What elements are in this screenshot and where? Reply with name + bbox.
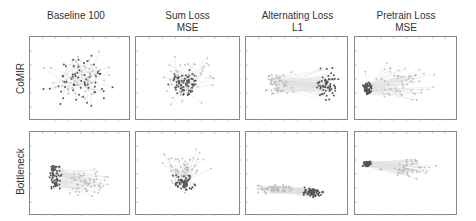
panel-comir-sum-loss bbox=[135, 36, 240, 120]
scatter-plot bbox=[355, 132, 458, 216]
column-title-text: Sum Loss bbox=[135, 10, 240, 22]
panel-bottleneck-baseline bbox=[29, 131, 130, 215]
column-subtitle-text: MSE bbox=[354, 22, 458, 34]
scatter-plot bbox=[136, 132, 241, 216]
scatter-plot bbox=[30, 37, 131, 121]
column-title-baseline: Baseline 100 bbox=[22, 10, 130, 22]
scatter-plot bbox=[246, 37, 349, 121]
column-title-sum-loss: Sum Loss MSE bbox=[135, 10, 240, 34]
column-subtitle-text: L1 bbox=[245, 22, 350, 34]
row-label-comir: CoMIR bbox=[15, 39, 26, 119]
scatter-plot bbox=[355, 37, 458, 121]
scatter-plot bbox=[30, 132, 131, 216]
panel-comir-alternating-loss bbox=[245, 36, 348, 120]
column-title-pretrain-loss: Pretrain Loss MSE bbox=[354, 10, 458, 34]
scatter-plot bbox=[246, 132, 349, 216]
row-label-bottleneck: Bottleneck bbox=[15, 132, 26, 212]
column-title-alternating-loss: Alternating Loss L1 bbox=[245, 10, 350, 34]
panel-bottleneck-pretrain-loss bbox=[354, 131, 457, 215]
column-title-text: Baseline 100 bbox=[22, 10, 130, 22]
panel-comir-baseline bbox=[29, 36, 130, 120]
panel-bottleneck-alternating-loss bbox=[245, 131, 348, 215]
column-subtitle-text: MSE bbox=[135, 22, 240, 34]
panel-bottleneck-sum-loss bbox=[135, 131, 240, 215]
scatter-plot bbox=[136, 37, 241, 121]
column-title-text: Alternating Loss bbox=[245, 10, 350, 22]
column-title-text: Pretrain Loss bbox=[354, 10, 458, 22]
panel-comir-pretrain-loss bbox=[354, 36, 457, 120]
